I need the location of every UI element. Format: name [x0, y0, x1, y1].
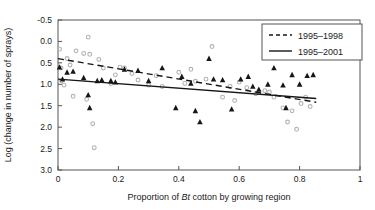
y-tick-label: 0.5: [40, 58, 52, 68]
legend-label: 1995–2001: [298, 47, 343, 57]
y-tick-label: 3.0: [40, 165, 52, 175]
y-tick-label: 2.5: [40, 144, 52, 154]
legend-label: 1995–1998: [298, 31, 343, 41]
x-tick-label: 0.2: [112, 174, 124, 184]
y-axis-title: Log (change in number of sprays): [3, 28, 13, 163]
chart-legend: 1995–19981995–2001: [262, 24, 362, 60]
x-axis-title: Proportion of Bt cotton by growing regio…: [127, 192, 290, 202]
y-tick-label: 2.0: [40, 122, 52, 132]
x-tick-label: 1: [358, 174, 363, 184]
chart-figure: -0.50.00.51.01.52.02.53.0 00.20.40.60.81…: [0, 0, 375, 210]
y-tick-label: -0.5: [37, 15, 52, 25]
x-tick-label: 0.8: [294, 174, 306, 184]
x-tick-label: 0.4: [173, 174, 185, 184]
scatter-plot: -0.50.00.51.01.52.02.53.0 00.20.40.60.81…: [0, 0, 375, 210]
x-tick-label: 0: [56, 174, 61, 184]
y-tick-label: 1.0: [40, 79, 52, 89]
y-tick-label: 1.5: [40, 101, 52, 111]
x-tick-label: 0.6: [233, 174, 245, 184]
y-tick-label: 0.0: [40, 36, 52, 46]
